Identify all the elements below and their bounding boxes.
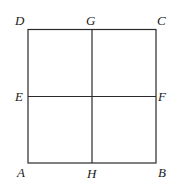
- label-h: H: [86, 166, 97, 181]
- label-d: D: [14, 13, 25, 28]
- label-c: C: [157, 13, 166, 28]
- label-b: B: [158, 165, 166, 180]
- label-e: E: [14, 89, 23, 104]
- square-diagram: D G C E F A H B: [0, 0, 186, 190]
- label-g: G: [86, 13, 96, 28]
- label-a: A: [16, 165, 25, 180]
- label-f: F: [157, 89, 167, 104]
